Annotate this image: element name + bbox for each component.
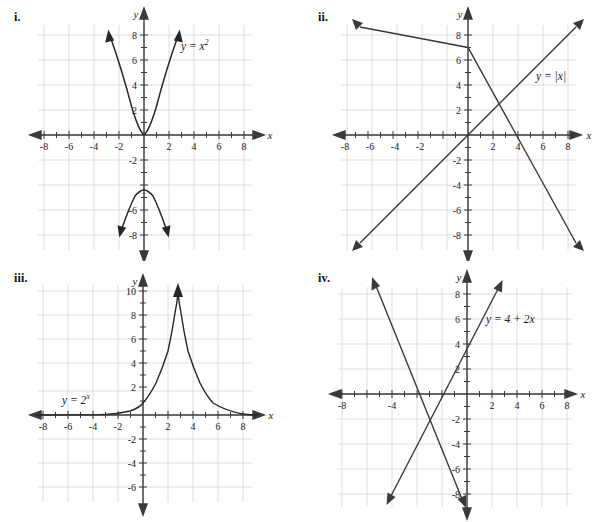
panel-i: i. — [0, 0, 304, 261]
svg-text:6: 6 — [456, 55, 461, 66]
equation-label-ii: y = |x| — [536, 70, 566, 82]
x-tick-labels-i: -8 -6 -4 -2 2 4 6 8 — [40, 141, 247, 152]
svg-text:-4: -4 — [388, 400, 396, 411]
svg-text:-4: -4 — [89, 421, 97, 432]
axes-i — [30, 8, 264, 261]
svg-text:-6: -6 — [453, 205, 461, 216]
svg-text:-8: -8 — [341, 141, 349, 152]
equation-text-ii: y = |x| — [536, 70, 566, 82]
svg-text:4: 4 — [131, 358, 136, 369]
svg-text:-4: -4 — [391, 141, 399, 152]
svg-text:-8: -8 — [39, 421, 47, 432]
svg-text:8: 8 — [566, 141, 571, 152]
svg-text:-4: -4 — [453, 180, 461, 191]
panel-i-plot: -8 -6 -4 -2 2 4 6 8 8 6 4 2 -2 -6 -8 x y — [0, 0, 304, 261]
curve-line-increasing-iv — [391, 289, 498, 496]
y-axis-name-iv: y — [456, 271, 462, 283]
svg-text:6: 6 — [216, 421, 221, 432]
svg-text:8: 8 — [241, 421, 246, 432]
svg-text:2: 2 — [490, 400, 495, 411]
svg-text:8: 8 — [132, 30, 137, 41]
svg-text:4: 4 — [192, 141, 197, 152]
svg-text:6: 6 — [217, 141, 222, 152]
svg-text:2: 2 — [456, 105, 461, 116]
svg-text:-4: -4 — [452, 439, 460, 450]
x-axis-name-ii: x — [586, 129, 592, 141]
svg-text:8: 8 — [455, 289, 460, 300]
curve-arrowhead-peak-iii — [173, 283, 183, 297]
equation-text-iii: y = 2 — [62, 394, 86, 406]
y-axis-name-i: y — [133, 8, 139, 20]
svg-text:-2: -2 — [129, 155, 137, 166]
svg-text:6: 6 — [132, 55, 137, 66]
x-axis-name-iii: x — [268, 409, 274, 421]
x-axis-name-iv: x — [580, 388, 586, 400]
svg-text:-8: -8 — [129, 230, 137, 241]
svg-text:2: 2 — [131, 382, 136, 393]
svg-text:2: 2 — [166, 421, 171, 432]
svg-text:-2: -2 — [114, 421, 122, 432]
svg-text:6: 6 — [455, 314, 460, 325]
x-tick-labels-iv: -8 -4 2 4 6 8 — [338, 400, 570, 411]
grid-lines-i — [38, 25, 252, 250]
equation-label-iv: y = 4 + 2x — [486, 313, 535, 325]
svg-text:-8: -8 — [453, 230, 461, 241]
svg-text:2: 2 — [491, 141, 496, 152]
svg-text:-2: -2 — [115, 141, 123, 152]
panel-iv: iv. — [304, 261, 608, 522]
y-axis-name-ii: y — [457, 8, 463, 20]
panel-ii-plot: -8 -6 -4 -2 2 4 6 8 8 6 4 2 -2 -4 -6 -8 … — [304, 0, 608, 261]
svg-text:4: 4 — [455, 339, 460, 350]
svg-text:6: 6 — [541, 141, 546, 152]
svg-text:-2: -2 — [128, 434, 136, 445]
equation-text-i: y = x — [181, 40, 205, 52]
svg-text:-4: -4 — [128, 458, 136, 469]
svg-text:4: 4 — [515, 400, 520, 411]
svg-text:8: 8 — [242, 141, 247, 152]
svg-text:-2: -2 — [453, 155, 461, 166]
curve-exponential-growth-iii — [36, 293, 178, 415]
panel-iii-plot: -8 -6 -4 -2 2 4 6 8 10 8 6 4 2 -2 -4 -6 … — [0, 261, 304, 522]
svg-text:8: 8 — [565, 400, 570, 411]
panel-iv-plot: -8 -4 2 4 6 8 8 6 4 2 -2 -4 -6 -8 x y — [304, 261, 608, 522]
x-axis-name-i: x — [267, 129, 273, 141]
equation-exponent-i: 2 — [205, 38, 209, 47]
svg-text:8: 8 — [131, 310, 136, 321]
svg-text:4: 4 — [132, 80, 137, 91]
svg-text:-4: -4 — [90, 141, 98, 152]
svg-text:-6: -6 — [128, 482, 136, 493]
equation-exponent-iii: x — [86, 392, 89, 401]
svg-text:-2: -2 — [416, 141, 424, 152]
svg-text:4: 4 — [516, 141, 521, 152]
svg-text:2: 2 — [167, 141, 172, 152]
y-axis-name-iii: y — [132, 275, 138, 287]
svg-text:-6: -6 — [65, 141, 73, 152]
svg-text:6: 6 — [540, 400, 545, 411]
equation-label-i: y = x2 — [181, 38, 208, 52]
svg-text:6: 6 — [131, 334, 136, 345]
svg-text:-6: -6 — [452, 464, 460, 475]
svg-text:-8: -8 — [338, 400, 346, 411]
y-tick-labels-iii: 10 8 6 4 2 -2 -4 -6 — [126, 286, 136, 493]
equation-text-iv: y = 4 + 2x — [486, 313, 535, 325]
svg-text:-8: -8 — [40, 141, 48, 152]
equation-label-iii: y = 2x — [62, 392, 90, 406]
svg-text:-6: -6 — [366, 141, 374, 152]
svg-text:4: 4 — [191, 421, 196, 432]
svg-text:8: 8 — [456, 30, 461, 41]
panel-iii: iii. — [0, 261, 304, 522]
svg-text:4: 4 — [456, 80, 461, 91]
svg-text:-2: -2 — [452, 414, 460, 425]
panel-ii: ii. — [304, 0, 608, 261]
svg-text:10: 10 — [126, 286, 136, 297]
svg-text:-6: -6 — [64, 421, 72, 432]
curve-line-decreasing-iv — [376, 286, 462, 499]
